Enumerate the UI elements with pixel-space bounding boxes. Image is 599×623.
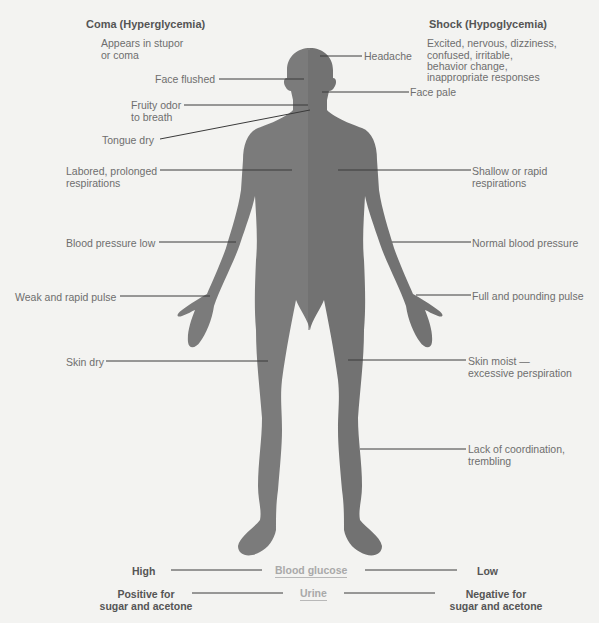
hyperglycemia-title: Coma (Hyperglycemia): [86, 18, 205, 30]
hyperglycemia-intro-line2: or coma: [101, 49, 139, 61]
hypoglycemia-intro-line4: inappropriate responses: [427, 71, 540, 83]
urine-positive-line1: Positive for: [100, 588, 192, 600]
human-silhouette-figure: [0, 0, 599, 623]
label-full-pounding-pulse: Full and pounding pulse: [472, 290, 584, 302]
label-weak-rapid-pulse: Weak and rapid pulse: [15, 291, 116, 303]
label-lack-coordination-line2: trembling: [468, 455, 511, 467]
hypoglycemia-intro-line1: Excited, nervous, dizziness,: [427, 37, 557, 49]
blood-glucose-center-label: Blood glucose: [275, 564, 347, 578]
label-skin-dry: Skin dry: [66, 356, 104, 368]
body-silhouette: [178, 48, 443, 555]
urine-negative-line1: Negative for: [446, 588, 546, 600]
hypoglycemia-title: Shock (Hypoglycemia): [429, 18, 547, 30]
label-labored-respirations-line2: respirations: [66, 177, 120, 189]
label-labored-respirations-line1: Labored, prolonged: [66, 165, 157, 177]
label-fruity-odor-line2: to breath: [131, 111, 172, 123]
label-lack-coordination-line1: Lack of coordination,: [468, 443, 565, 455]
blood-glucose-high-label: High: [132, 565, 155, 577]
blood-glucose-low-label: Low: [477, 565, 498, 577]
label-normal-blood-pressure: Normal blood pressure: [472, 237, 578, 249]
label-face-pale: Face pale: [410, 86, 456, 98]
label-fruity-odor-line1: Fruity odor: [131, 99, 181, 111]
label-tongue-dry: Tongue dry: [102, 134, 154, 146]
urine-center-label: Urine: [300, 587, 327, 601]
label-face-flushed: Face flushed: [155, 73, 215, 85]
hyperglycemia-intro-line1: Appears in stupor: [101, 37, 183, 49]
label-skin-moist-line2: excessive perspiration: [468, 367, 572, 379]
label-headache: Headache: [364, 50, 412, 62]
label-skin-moist-line1: Skin moist —: [468, 355, 530, 367]
urine-negative-line2: sugar and acetone: [442, 600, 550, 612]
label-blood-pressure-low: Blood pressure low: [66, 237, 155, 249]
label-shallow-respirations-line2: respirations: [472, 177, 526, 189]
label-shallow-respirations-line1: Shallow or rapid: [472, 165, 547, 177]
urine-positive-line2: sugar and acetone: [96, 600, 196, 612]
